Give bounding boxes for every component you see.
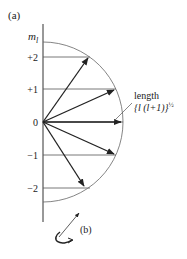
tick-plus1: +1 <box>27 84 38 95</box>
vector-model-diagram: (a) ml +2 +1 0 −1 −2 length {l (l+1)}½ (… <box>0 0 187 259</box>
tick-minus1: −1 <box>27 150 38 161</box>
annotation-length: length <box>134 90 159 101</box>
rotation-ellipse <box>56 232 72 243</box>
annotation-formula: {l (l+1)}½ <box>134 101 174 114</box>
tick-plus2: +2 <box>27 52 38 63</box>
tick-minus2: −2 <box>27 183 38 194</box>
axis-label: ml <box>28 30 39 45</box>
tick-0: 0 <box>33 117 38 128</box>
panel-b-label: (b) <box>80 224 92 236</box>
panel-a-label: (a) <box>8 9 21 22</box>
precession-vector <box>59 213 79 237</box>
